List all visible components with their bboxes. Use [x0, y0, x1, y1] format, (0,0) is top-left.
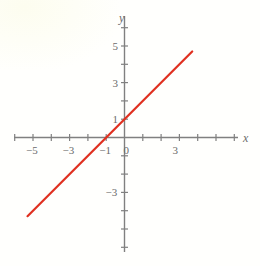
y-axis-label: y — [119, 12, 124, 24]
y-tick-label: 1 — [113, 114, 119, 125]
x-tick-label: 0 — [124, 145, 130, 156]
x-tick-label: −1 — [99, 145, 111, 156]
graph-figure: y x −5−3−103 531−3 — [0, 0, 260, 266]
y-tick-label: −3 — [106, 187, 118, 198]
x-tick-label: 3 — [172, 145, 178, 156]
y-tick-label: 3 — [113, 78, 119, 89]
x-tick-label: −5 — [26, 145, 38, 156]
x-tick-label: −3 — [63, 145, 75, 156]
coordinate-plane — [0, 0, 260, 266]
y-tick-label: 5 — [113, 41, 119, 52]
x-axis-label: x — [243, 132, 248, 144]
